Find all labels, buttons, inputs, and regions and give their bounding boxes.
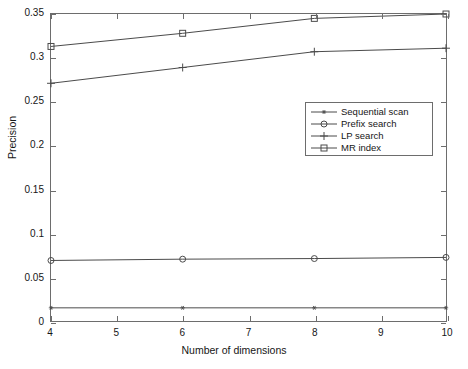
data-point-plus — [179, 64, 187, 72]
data-point-plus — [442, 44, 450, 52]
plot-area — [50, 13, 447, 322]
data-point-plus — [47, 79, 55, 87]
series-line — [51, 14, 446, 46]
x-tick-mark — [51, 316, 52, 321]
y-tick-label: 0.1 — [30, 229, 44, 239]
x-tick-mark-top — [316, 14, 317, 19]
x-tick-mark-top — [382, 14, 383, 19]
y-tick-mark-right — [441, 14, 446, 15]
y-tick-label: 0.3 — [30, 52, 44, 62]
series-sequential-scan — [49, 306, 448, 310]
x-tick-mark-top — [183, 14, 184, 19]
x-tick-mark-top — [250, 14, 251, 19]
chart-legend: Sequential scanPrefix searchLP searchMR … — [305, 102, 433, 156]
x-tick-label: 6 — [162, 328, 202, 338]
legend-label: Prefix search — [341, 118, 396, 130]
x-tick-mark — [250, 316, 251, 321]
data-series-layer — [51, 14, 446, 321]
y-tick-mark — [51, 146, 56, 147]
legend-label: LP search — [341, 130, 384, 142]
data-point-plus — [320, 132, 328, 140]
x-tick-label: 7 — [229, 328, 269, 338]
data-point-star — [49, 306, 53, 310]
plot-inner — [51, 14, 446, 321]
x-tick-label: 10 — [427, 328, 467, 338]
y-tick-mark-right — [441, 146, 446, 147]
legend-marker-circle-icon — [310, 118, 338, 130]
y-axis-title: Precision — [7, 98, 18, 178]
x-tick-mark — [448, 316, 449, 321]
data-point-star — [444, 306, 448, 310]
y-tick-mark-right — [441, 102, 446, 103]
y-tick-mark-right — [441, 279, 446, 280]
x-tick-mark — [117, 316, 118, 321]
y-tick-mark-right — [441, 191, 446, 192]
data-point-plus — [310, 48, 318, 56]
y-tick-mark — [51, 235, 56, 236]
legend-label: Sequential scan — [341, 106, 409, 118]
x-tick-label: 5 — [96, 328, 136, 338]
y-tick-label: 0 — [38, 317, 44, 327]
x-axis-title: Number of dimensions — [0, 345, 468, 356]
legend-marker-plus-icon — [310, 130, 338, 142]
data-point-star — [180, 306, 184, 310]
y-tick-mark — [51, 191, 56, 192]
y-tick-mark-right — [441, 58, 446, 59]
series-mr-index — [48, 11, 449, 49]
legend-marker-square-icon — [310, 142, 338, 154]
y-tick-mark — [51, 58, 56, 59]
x-tick-label: 8 — [295, 328, 335, 338]
y-tick-label: 0.2 — [30, 140, 44, 150]
legend-marker-star-icon — [310, 106, 338, 118]
x-tick-mark-top — [51, 14, 52, 19]
series-line — [51, 257, 446, 260]
y-tick-mark — [51, 323, 56, 324]
x-tick-label: 9 — [361, 328, 401, 338]
series-prefix-search — [48, 254, 449, 263]
y-tick-mark-right — [441, 235, 446, 236]
data-point-star — [312, 306, 316, 310]
y-tick-mark — [51, 102, 56, 103]
x-tick-mark — [183, 316, 184, 321]
y-tick-label: 0.15 — [25, 185, 44, 195]
y-tick-mark — [51, 279, 56, 280]
legend-label: MR index — [341, 142, 381, 154]
x-tick-label: 4 — [30, 328, 70, 338]
legend-item-mr-index[interactable]: MR index — [310, 142, 432, 154]
y-tick-label: 0.35 — [25, 8, 44, 18]
legend-item-sequential-scan[interactable]: Sequential scan — [310, 106, 432, 118]
y-tick-mark-right — [441, 323, 446, 324]
series-line — [51, 48, 446, 83]
x-tick-mark-top — [117, 14, 118, 19]
x-tick-mark-top — [448, 14, 449, 19]
y-tick-label: 0.05 — [25, 273, 44, 283]
y-tick-label: 0.25 — [25, 96, 44, 106]
y-axis-tick-labels: 00.050.10.150.20.250.30.35 — [0, 0, 44, 369]
precision-vs-dimensions-chart: 00.050.10.150.20.250.30.35 Precision 456… — [0, 0, 468, 369]
x-tick-mark — [316, 316, 317, 321]
x-axis-tick-labels: 45678910 — [0, 328, 468, 342]
legend-item-lp-search[interactable]: LP search — [310, 130, 432, 142]
legend-item-prefix-search[interactable]: Prefix search — [310, 118, 432, 130]
x-tick-mark — [382, 316, 383, 321]
series-lp-search — [47, 44, 450, 87]
data-point-star — [322, 110, 326, 114]
